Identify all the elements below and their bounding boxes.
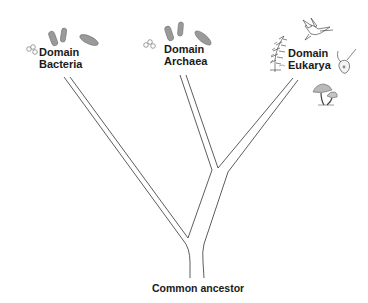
fern-plant-icon: [270, 36, 287, 72]
cocci-cluster-icon: [144, 40, 156, 49]
cocci-cluster-icon: [27, 45, 38, 55]
branch-bacteria: [64, 77, 188, 240]
tree-of-life-diagram: Domain Bacteria Domain Archaea Domain Eu…: [0, 0, 368, 303]
branch-archaea: [180, 75, 218, 170]
rod-bacteria-icon: [48, 28, 67, 47]
label-common-ancestor: Common ancestor: [152, 282, 244, 294]
domain-name: Archaea: [164, 55, 207, 67]
domain-word: Domain: [288, 47, 331, 59]
protist-cell-icon: [337, 49, 356, 73]
branch-eukarya: [218, 78, 298, 172]
domain-word: Domain: [164, 43, 207, 55]
rod-archaea-icon: [164, 22, 184, 42]
mushrooms-icon: [313, 84, 337, 105]
domain-name: Eukarya: [288, 59, 331, 71]
label-domain-archaea: Domain Archaea: [164, 43, 207, 67]
domain-name: Bacteria: [39, 58, 82, 70]
domain-word: Domain: [39, 46, 82, 58]
branch-archaea-eukarya-stem: [188, 170, 228, 244]
label-domain-eukarya: Domain Eukarya: [288, 47, 331, 71]
hummingbird-icon: [303, 18, 333, 40]
label-domain-bacteria: Domain Bacteria: [39, 46, 82, 70]
trunk: [183, 240, 204, 278]
